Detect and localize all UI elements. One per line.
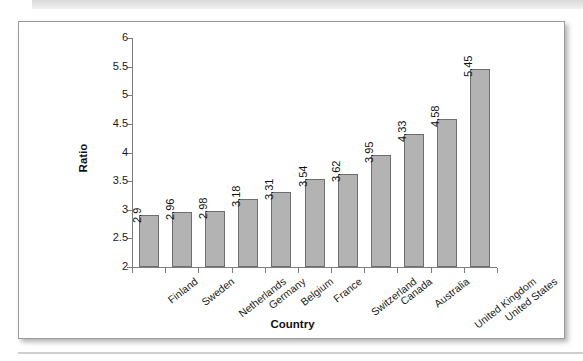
x-tick — [265, 268, 266, 273]
y-tick-label: 3.5 — [113, 174, 132, 187]
bar-value-label: 4.33 — [396, 120, 408, 141]
y-tick-label: 4 — [122, 146, 132, 159]
bar — [371, 155, 391, 267]
x-axis-label: Finland — [165, 275, 200, 306]
bar-value-label: 2.96 — [164, 199, 176, 220]
x-tick — [464, 268, 465, 273]
x-tick — [364, 268, 365, 273]
x-axis-label: Australia — [432, 275, 472, 310]
x-axis-title: Country — [19, 318, 566, 330]
y-tick-label: 2 — [122, 260, 132, 273]
x-axis-label: France — [330, 275, 363, 305]
bar-value-label: 3.31 — [263, 179, 275, 200]
page-top-band-cap — [0, 0, 32, 9]
y-tick-label: 5.5 — [113, 60, 132, 73]
figure-frame: 65.554.543.532.52 2.92.962.983.183.313.5… — [18, 21, 565, 339]
bar — [271, 192, 291, 267]
bar-chart: 65.554.543.532.52 2.92.962.983.183.313.5… — [19, 22, 566, 340]
bar — [404, 134, 424, 267]
y-axis-line — [132, 38, 133, 268]
bar — [238, 199, 258, 267]
bar — [205, 211, 225, 267]
bar-value-label: 4.58 — [429, 106, 441, 127]
bar — [338, 174, 358, 267]
x-tick — [397, 268, 398, 273]
bar — [437, 119, 457, 267]
x-axis-line — [132, 267, 497, 268]
x-tick — [331, 268, 332, 273]
bar — [139, 215, 159, 267]
x-tick — [298, 268, 299, 273]
x-tick — [198, 268, 199, 273]
x-tick — [132, 268, 133, 273]
bar-value-label: 3.95 — [363, 142, 375, 163]
y-tick-label: 2.5 — [113, 231, 132, 244]
x-tick — [165, 268, 166, 273]
x-tick — [431, 268, 432, 273]
y-axis-title: Ratio — [77, 144, 89, 173]
y-tick-label: 5 — [122, 88, 132, 101]
page-top-band — [30, 0, 583, 9]
bar-value-label: 5.45 — [462, 56, 474, 77]
bar-value-label: 2.98 — [197, 197, 209, 218]
bar-value-label: 2.9 — [131, 208, 143, 223]
bar-value-label: 3.62 — [330, 161, 342, 182]
bar-value-label: 3.18 — [230, 186, 242, 207]
x-tick — [232, 268, 233, 273]
y-tick-label: 6 — [122, 31, 132, 44]
page-bottom-rule — [18, 352, 583, 354]
x-tick — [497, 268, 498, 273]
bar — [470, 69, 490, 267]
bar-value-label: 3.54 — [297, 165, 309, 186]
bar — [305, 179, 325, 267]
x-axis-label: Sweden — [199, 275, 236, 308]
bar — [172, 212, 192, 267]
y-tick-label: 4.5 — [113, 117, 132, 130]
